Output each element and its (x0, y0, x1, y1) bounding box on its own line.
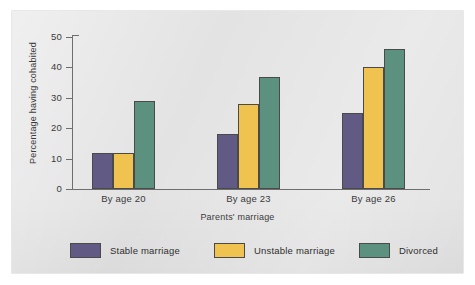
legend-label: Unstable marriage (254, 245, 335, 256)
chart-figure: Percentage having cohabited 01020304050 … (0, 0, 475, 285)
y-tick-label: 40 (36, 61, 62, 72)
bar (363, 67, 384, 189)
bar (384, 49, 405, 189)
bar (92, 153, 113, 189)
bar (238, 104, 259, 189)
y-tick-label: 20 (36, 122, 62, 133)
bar (113, 153, 134, 189)
y-axis-ticks: 01020304050 (0, 0, 72, 285)
x-axis-category-label: By age 26 (314, 193, 434, 204)
y-axis-top-stub (72, 35, 79, 36)
y-tick-label: 30 (36, 92, 62, 103)
legend-swatch (70, 243, 101, 258)
bar (134, 101, 155, 189)
chart-legend: Stable marriageUnstable marriageDivorced (70, 241, 430, 261)
y-tick-label: 0 (36, 183, 62, 194)
x-axis-line (72, 189, 430, 190)
x-axis-category-label: By age 23 (189, 193, 309, 204)
legend-swatch (214, 243, 245, 258)
legend-entry: Unstable marriage (214, 241, 335, 259)
legend-label: Divorced (399, 245, 438, 256)
y-tick-mark (66, 189, 72, 190)
x-axis-category-label: By age 20 (64, 193, 184, 204)
bar (259, 77, 280, 189)
y-tick-label: 10 (36, 153, 62, 164)
x-axis-title: Parents' marriage (0, 212, 475, 222)
bar (217, 134, 238, 189)
bar (342, 113, 363, 189)
plot-area (72, 37, 430, 189)
legend-entry: Divorced (359, 241, 438, 259)
legend-label: Stable marriage (110, 245, 180, 256)
legend-entry: Stable marriage (70, 241, 180, 259)
legend-swatch (359, 243, 390, 258)
y-tick-label: 50 (36, 31, 62, 42)
